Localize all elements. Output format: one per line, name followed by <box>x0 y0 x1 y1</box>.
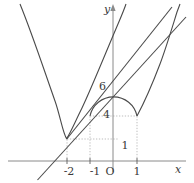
origin-label: O <box>105 165 114 178</box>
axes-group <box>8 4 186 172</box>
parabola-curve <box>20 4 126 139</box>
x-tick-label-1: 1 <box>134 165 141 178</box>
y-axis-label: y <box>103 3 111 16</box>
y-tick-label-6: 6 <box>99 80 106 93</box>
parabola-right-branch <box>137 4 180 116</box>
x-tick-label-minus2: -2 <box>64 165 75 178</box>
y-axis-arrow <box>110 4 115 11</box>
y-tick-label-4: 4 <box>103 108 110 121</box>
math-graph-figure: 6 4 1 -2 -1 O 1 x y <box>0 0 194 183</box>
x-axis-label: x <box>175 163 182 176</box>
x-tick-label-minus1: -1 <box>90 165 101 178</box>
secant-line <box>38 17 187 180</box>
y-tick-label-1: 1 <box>122 139 129 152</box>
